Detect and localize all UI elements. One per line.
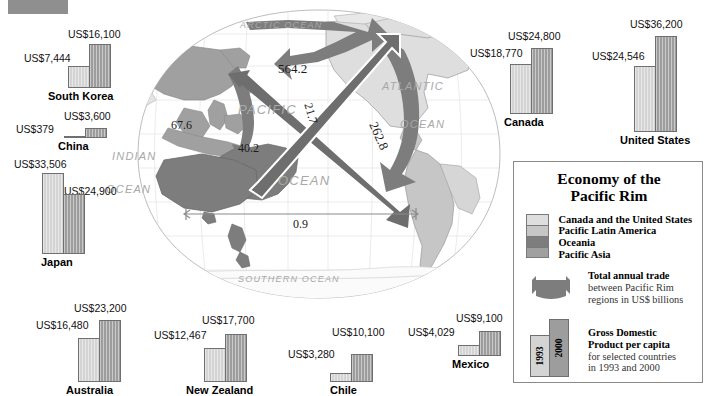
legend-title-line2: Pacific Rim <box>526 187 692 204</box>
legend-trade-line2: between Pacific Rim <box>588 282 674 293</box>
country-label: Canada <box>504 116 544 128</box>
swatch-pacific-asia <box>526 247 549 258</box>
bar-2000 <box>85 128 107 138</box>
legend-bar-1993-label: 1993 <box>535 347 545 366</box>
legend-trade-text: Total annual trade between Pacific Rim r… <box>588 270 683 305</box>
legend-label-oceania: Oceania <box>558 237 692 249</box>
legend-title-line1: Economy of the <box>526 170 692 187</box>
flow-value-09: 0.9 <box>293 217 308 232</box>
bar-1993 <box>42 173 64 254</box>
bar-1993 <box>634 66 656 132</box>
value-label-2000: US$3,600 <box>64 110 111 122</box>
legend-label-pacific-asia: Pacific Asia <box>558 249 692 261</box>
value-label-2000: US$24,800 <box>508 30 561 42</box>
legend-title: Economy of the Pacific Rim <box>526 170 692 205</box>
flow-value-67: 67.6 <box>171 118 192 133</box>
legend-trade-line3: regions in US$ billions <box>588 294 683 305</box>
bar-1993 <box>204 348 226 382</box>
country-label: South Korea <box>48 90 113 102</box>
bar-2000 <box>479 331 501 356</box>
map-graphic <box>128 8 510 300</box>
value-label-1993: US$379 <box>16 123 54 135</box>
value-label-2000: US$17,700 <box>202 314 255 326</box>
bar-2000 <box>531 48 553 114</box>
bar-2000 <box>351 354 373 382</box>
value-label-1993: US$33,506 <box>14 158 67 170</box>
bar-1993 <box>78 338 100 382</box>
legend-label-canada-us: Canada and the United States <box>558 214 692 226</box>
bar-2000 <box>89 44 111 88</box>
country-label: Japan <box>41 256 73 268</box>
country-label: New Zealand <box>186 384 253 396</box>
legend-trade-key: Total annual trade between Pacific Rim r… <box>526 270 692 306</box>
swatch-pacific-latin-america <box>526 225 549 236</box>
swatch-canada-us <box>526 214 549 225</box>
legend-bars-cell: 1993 2000 <box>526 315 578 377</box>
country-label: Australia <box>66 384 113 396</box>
bar-2000 <box>99 320 121 382</box>
bars <box>64 128 107 138</box>
value-label-2000: US$10,100 <box>332 326 385 338</box>
legend-swatches <box>526 214 549 260</box>
legend-bar-2000: 2000 <box>549 319 569 377</box>
bar-2000 <box>63 194 85 254</box>
value-label-2000: US$9,100 <box>456 312 503 324</box>
bars <box>68 44 111 88</box>
bars <box>42 173 85 254</box>
country-label: Mexico <box>452 358 489 370</box>
bargroup-chile: US$3,280 US$10,100 Chile <box>288 326 398 396</box>
bargroup-new-zealand: US$12,467 US$17,700 New Zealand <box>154 314 274 396</box>
legend-bar-2000-label: 2000 <box>554 339 564 358</box>
legend-trade-bold: Total annual trade <box>588 270 669 281</box>
bargroup-united-states: US$24,546 US$36,200 United States <box>592 18 710 146</box>
bar-1993 <box>68 66 90 88</box>
bars <box>458 331 501 356</box>
swatch-oceania <box>526 236 549 247</box>
bargroup-mexico: US$4,029 US$9,100 Mexico <box>408 312 518 370</box>
bars <box>510 48 553 114</box>
bars <box>204 334 247 382</box>
country-label: Chile <box>330 384 357 396</box>
legend-region-key: Canada and the United States Pacific Lat… <box>526 214 692 260</box>
value-label-2000: US$23,200 <box>74 302 127 314</box>
legend-gdp-key: 1993 2000 Gross Domestic Product per cap… <box>526 315 692 377</box>
bar-2000 <box>225 334 247 382</box>
bars <box>78 320 121 382</box>
flow-value-564: 564.2 <box>278 61 307 77</box>
country-label: China <box>58 140 89 152</box>
legend-gdp-line3: for selected countries <box>588 351 676 362</box>
legend-panel: Economy of the Pacific Rim Canada and th… <box>513 161 703 383</box>
flow-value-40: 40.2 <box>238 141 259 156</box>
value-label-2000: US$36,200 <box>630 18 683 30</box>
legend-gdp-bold2: Product per capita <box>588 339 670 350</box>
bar-1993 <box>64 136 86 138</box>
bars <box>330 354 373 382</box>
bargroup-china: US$379 US$3,600 China <box>16 110 116 152</box>
legend-bar-1993: 1993 <box>530 335 550 377</box>
bargroup-south-korea: US$7,444 US$16,100 South Korea <box>24 28 124 102</box>
bargroup-canada: US$18,770 US$24,800 Canada <box>470 30 580 128</box>
bar-2000 <box>655 36 677 132</box>
value-label-2000: US$16,100 <box>68 28 121 40</box>
bargroup-japan: US$33,506 US$24,900 Japan <box>14 158 124 268</box>
value-label-1993: US$4,029 <box>408 326 455 338</box>
legend-arrow-cell <box>526 270 578 306</box>
bar-1993 <box>458 345 480 356</box>
bar-1993 <box>330 373 352 382</box>
legend-gdp-bold1: Gross Domestic <box>588 327 657 338</box>
bars <box>634 36 677 132</box>
bar-1993 <box>510 64 532 114</box>
legend-gdp-text: Gross Domestic Product per capita for se… <box>588 315 676 374</box>
trade-arrow-icon <box>526 276 576 302</box>
country-label: United States <box>620 134 690 146</box>
world-map: ARCTIC OCEAN ATLANTIC OCEAN PACIFIC OCEA… <box>128 8 510 300</box>
legend-gdp-line4: in 1993 and 2000 <box>588 362 660 373</box>
value-label-1993: US$3,280 <box>288 348 335 360</box>
value-label-1993: US$12,467 <box>154 329 207 341</box>
infographic-root: ARCTIC OCEAN ATLANTIC OCEAN PACIFIC OCEA… <box>0 0 710 396</box>
legend-label-pacific-latin-america: Pacific Latin America <box>558 225 692 237</box>
corner-artifact-rect <box>8 0 68 14</box>
bargroup-australia: US$16,480 US$23,200 Australia <box>36 302 146 396</box>
value-label-1993: US$7,444 <box>24 52 71 64</box>
legend-region-labels: Canada and the United States Pacific Lat… <box>558 214 692 260</box>
